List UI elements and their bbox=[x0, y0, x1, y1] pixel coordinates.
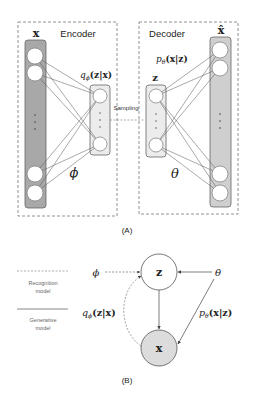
decoder-distribution-label: pθ(x|z) bbox=[156, 54, 188, 65]
encoder-distribution-label: qϕ(z|x) bbox=[80, 70, 112, 82]
input-node bbox=[27, 65, 43, 81]
input-node bbox=[27, 185, 43, 201]
legend-generative-line1: Generative bbox=[30, 317, 57, 323]
input-node bbox=[27, 48, 43, 64]
panel-b: Recognition model Generative model z x ϕ… bbox=[17, 254, 232, 385]
sampling-label: Sampling bbox=[113, 105, 138, 111]
generative-distribution-label: pθ(x|z) bbox=[199, 307, 232, 319]
encoder-title: Encoder bbox=[60, 28, 95, 39]
legend-recognition-line2: model bbox=[36, 288, 51, 294]
panel-a: Sampling Encoder Decoder x x̂ z qϕ(z|x) … bbox=[18, 22, 238, 235]
recognition-arc bbox=[124, 276, 141, 346]
vae-diagram: Sampling Encoder Decoder x x̂ z qϕ(z|x) … bbox=[0, 0, 254, 400]
decoder-param-theta: θ bbox=[171, 166, 179, 181]
input-label-x: x bbox=[33, 27, 40, 40]
legend-generative-line2: model bbox=[36, 325, 51, 331]
observed-node-label: x bbox=[156, 342, 163, 355]
param-phi: ϕ bbox=[93, 267, 100, 278]
panel-a-caption: (A) bbox=[122, 226, 133, 235]
legend-recognition-line1: Recognition bbox=[28, 280, 57, 286]
panel-b-caption: (B) bbox=[122, 376, 133, 385]
latent-node-label: z bbox=[156, 266, 162, 279]
input-node bbox=[27, 166, 43, 182]
latent-label-z: z bbox=[152, 72, 158, 83]
recognition-distribution-label: qϕ(z|x) bbox=[82, 307, 116, 320]
decoder-title: Decoder bbox=[149, 28, 185, 39]
output-label-xhat: x̂ bbox=[218, 24, 225, 37]
param-theta: θ bbox=[215, 267, 221, 278]
encoder-param-phi: ϕ bbox=[70, 165, 79, 180]
